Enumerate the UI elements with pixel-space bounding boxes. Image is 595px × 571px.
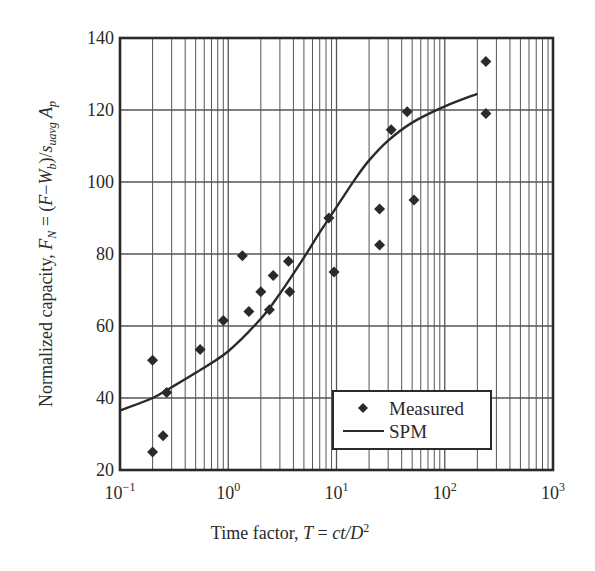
chart-canvas: 20406080100120140 10−1100101102103 Measu… [0, 0, 595, 571]
measured-point-diamond-icon [402, 106, 413, 117]
measured-point-diamond-icon [480, 56, 491, 67]
y-axis-tick-labels: 20406080100120140 [87, 28, 114, 480]
y-tick-label: 120 [87, 100, 114, 120]
measured-point-diamond-icon [283, 256, 294, 267]
x-tick-label: 100 [216, 480, 240, 503]
y-tick-label: 80 [96, 244, 114, 264]
y-tick-label: 60 [96, 316, 114, 336]
measured-point-diamond-icon [374, 240, 385, 251]
legend: Measured SPM [333, 391, 491, 449]
x-tick-label: 103 [541, 480, 565, 503]
measured-point-diamond-icon [374, 204, 385, 215]
chart: 20406080100120140 10−1100101102103 Measu… [0, 0, 595, 571]
x-tick-label: 101 [325, 480, 349, 503]
y-tick-label: 140 [87, 28, 114, 48]
measured-point-diamond-icon [147, 355, 158, 366]
measured-point-diamond-icon [158, 430, 169, 441]
y-axis-label: Normalized capacity, FN = (F−Wb)/suavg A… [36, 101, 59, 407]
x-tick-label: 102 [433, 480, 457, 503]
x-axis-label: Time factor, T = ct/D2 [211, 521, 369, 543]
measured-point-diamond-icon [237, 250, 248, 261]
measured-point-diamond-icon [218, 315, 229, 326]
x-tick-label: 10−1 [105, 480, 136, 503]
y-tick-label: 100 [87, 172, 114, 192]
measured-point-diamond-icon [329, 267, 340, 278]
measured-point-diamond-icon [243, 306, 254, 317]
measured-point-diamond-icon [409, 195, 420, 206]
spm-curve [120, 94, 477, 411]
legend-label-spm: SPM [389, 421, 427, 442]
measured-point-diamond-icon [147, 447, 158, 458]
measured-point-diamond-icon [255, 286, 266, 297]
x-axis-tick-labels: 10−1100101102103 [105, 480, 565, 503]
spm-curve-line [120, 94, 477, 411]
legend-label-measured: Measured [389, 398, 464, 419]
measured-point-diamond-icon [268, 270, 279, 281]
y-tick-label: 40 [96, 388, 114, 408]
y-tick-label: 20 [96, 460, 114, 480]
